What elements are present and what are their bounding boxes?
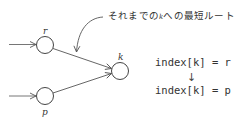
diagram-canvas: r p k それまでのkへの最短ルート index[k] = r ↓ index… bbox=[0, 0, 240, 128]
edge-p-to-k bbox=[53, 74, 112, 94]
node-p bbox=[37, 88, 54, 105]
node-k bbox=[112, 63, 129, 80]
annotation-suffix: への最短ルート bbox=[163, 10, 234, 21]
annotation-text: それまでのkへの最短ルート bbox=[108, 11, 235, 21]
node-label-r: r bbox=[43, 27, 47, 36]
annotation-pointer-arrow bbox=[77, 17, 104, 52]
edge-r-to-k bbox=[53, 49, 112, 69]
code-line-after: index[k] = p bbox=[155, 85, 231, 96]
annotation-prefix: それまでの bbox=[108, 10, 159, 21]
code-line-before: index[k] = r bbox=[155, 57, 231, 68]
down-arrow-icon: ↓ bbox=[187, 72, 196, 83]
node-label-p: p bbox=[42, 108, 48, 117]
node-r bbox=[37, 37, 54, 54]
node-label-k: k bbox=[118, 53, 123, 62]
